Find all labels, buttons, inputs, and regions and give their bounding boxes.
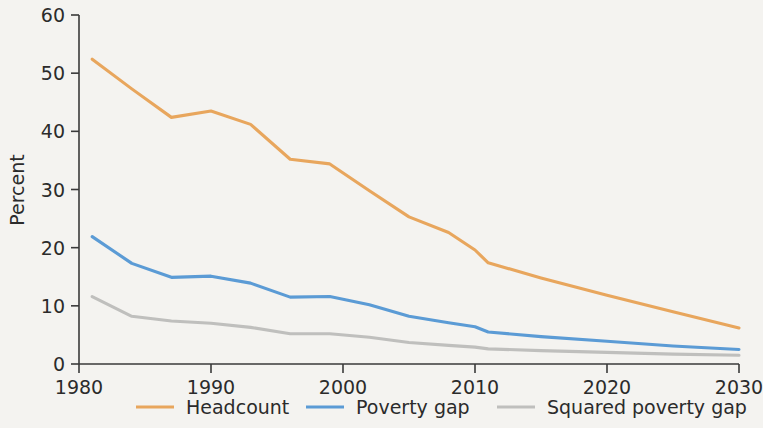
x-tick-label: 2020 [583, 376, 631, 398]
legend-label-poverty-gap: Poverty gap [356, 396, 470, 418]
chart-legend: HeadcountPoverty gapSquared poverty gap [136, 396, 747, 418]
y-axis-ticks: 0102030405060 [41, 4, 79, 375]
x-tick-label: 2030 [715, 376, 763, 398]
series-line-poverty-gap [92, 237, 739, 350]
x-tick-label: 2000 [319, 376, 367, 398]
x-tick-label: 1980 [55, 376, 103, 398]
y-tick-label: 30 [41, 179, 65, 201]
legend-label-squared-poverty-gap: Squared poverty gap [547, 396, 747, 418]
y-tick-label: 50 [41, 62, 65, 84]
y-tick-label: 60 [41, 4, 65, 26]
legend-label-headcount: Headcount [186, 396, 289, 418]
y-tick-label: 40 [41, 120, 65, 142]
x-tick-label: 2010 [451, 376, 499, 398]
y-tick-label: 20 [41, 237, 65, 259]
x-tick-label: 1990 [187, 376, 235, 398]
y-tick-label: 10 [41, 295, 65, 317]
y-tick-label: 0 [53, 353, 65, 375]
line-chart: Percent 0102030405060 198019902000201020… [0, 0, 763, 428]
series-line-headcount [92, 59, 739, 328]
x-axis-ticks: 198019902000201020202030 [55, 364, 763, 398]
chart-container: Percent 0102030405060 198019902000201020… [0, 0, 763, 428]
series-lines [92, 59, 739, 355]
y-axis-label: Percent [6, 154, 28, 226]
